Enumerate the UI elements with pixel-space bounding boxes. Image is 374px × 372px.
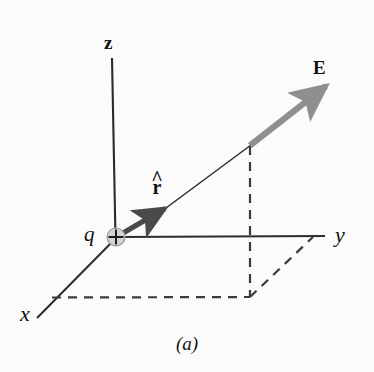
field-line-connector bbox=[166, 145, 251, 208]
axis-z-line bbox=[112, 58, 116, 238]
coordinate-diagram-svg bbox=[0, 0, 374, 372]
electric-field-vector-arrow bbox=[250, 86, 326, 146]
figure-caption: (a) bbox=[176, 334, 198, 353]
charge-label-q: q bbox=[84, 224, 95, 245]
unit-vector-rhat-arrow bbox=[118, 209, 165, 237]
electric-field-label-E: E bbox=[313, 58, 326, 77]
axis-label-z: z bbox=[104, 33, 112, 52]
projection-diagonal-dashed-line bbox=[250, 237, 313, 297]
axis-y-line bbox=[116, 236, 325, 237]
projection-horizontal-dashed-line bbox=[52, 297, 250, 298]
axis-label-x: x bbox=[20, 303, 30, 325]
unit-vector-label-rhat: ^ r bbox=[144, 168, 170, 200]
physics-figure-electric-field: z y x q E ^ r (a) bbox=[0, 0, 374, 372]
axis-x-line bbox=[37, 238, 116, 318]
axis-label-y: y bbox=[335, 224, 345, 246]
rhat-letter-glyph: r bbox=[144, 177, 170, 197]
